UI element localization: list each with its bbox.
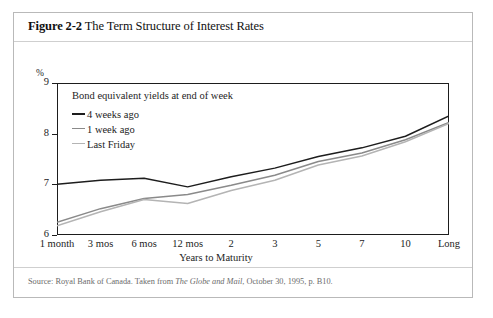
legend-label: Last Friday xyxy=(87,139,135,150)
legend-item: 4 weeks ago xyxy=(72,108,139,123)
y-tick-mark xyxy=(52,235,57,236)
source-publication: The Globe and Mail xyxy=(175,277,242,286)
x-tick-label: 12 mos xyxy=(172,238,203,249)
y-tick-label: 7 xyxy=(29,177,49,188)
legend-swatch-2 xyxy=(72,128,85,129)
x-tick-label: 7 xyxy=(359,238,364,249)
legend-item: 1 week ago xyxy=(72,123,139,138)
legend-label: 1 week ago xyxy=(87,124,135,135)
figure-title-text: The Term Structure of Interest Rates xyxy=(85,19,264,33)
x-tick-label: 1 month xyxy=(40,238,75,249)
x-tick-label: 6 mos xyxy=(131,238,156,249)
legend-label: 4 weeks ago xyxy=(87,109,139,120)
page-title: Figure 2-2 The Term Structure of Interes… xyxy=(28,19,264,34)
x-tick-label: 3 xyxy=(272,238,277,249)
source-suffix: , October 30, 1995, p. B10. xyxy=(242,277,332,286)
x-tick-label: Long xyxy=(438,238,460,249)
figure-footer: Source: Royal Bank of Canada. Taken from… xyxy=(14,267,472,297)
y-tick-mark xyxy=(52,184,57,185)
legend-swatch-3 xyxy=(72,143,85,144)
source-prefix: Source: Royal Bank of Canada. Taken from xyxy=(28,277,175,286)
chart-legend: 4 weeks ago1 week agoLast Friday xyxy=(72,108,139,153)
chart-caption: Bond equivalent yields at end of week xyxy=(72,90,233,101)
plot-svg xyxy=(57,83,449,235)
y-tick-mark xyxy=(52,134,57,135)
x-tick-label: 5 xyxy=(316,238,321,249)
figure-number: Figure 2-2 xyxy=(28,19,82,33)
chart-area: % Bond equivalent yields at end of week … xyxy=(14,42,472,268)
y-tick-label: 9 xyxy=(29,76,49,87)
y-tick-mark xyxy=(52,83,57,84)
x-tick-label: 2 xyxy=(229,238,234,249)
figure-header: Figure 2-2 The Term Structure of Interes… xyxy=(14,13,472,42)
y-tick-label: 8 xyxy=(29,127,49,138)
x-tick-label: 3 mos xyxy=(88,238,113,249)
x-tick-label: 10 xyxy=(400,238,411,249)
x-axis-title: Years to Maturity xyxy=(179,252,253,263)
legend-swatch-1 xyxy=(72,113,85,115)
figure-card: Figure 2-2 The Term Structure of Interes… xyxy=(13,12,473,298)
legend-item: Last Friday xyxy=(72,138,139,153)
source-note: Source: Royal Bank of Canada. Taken from… xyxy=(28,277,333,286)
